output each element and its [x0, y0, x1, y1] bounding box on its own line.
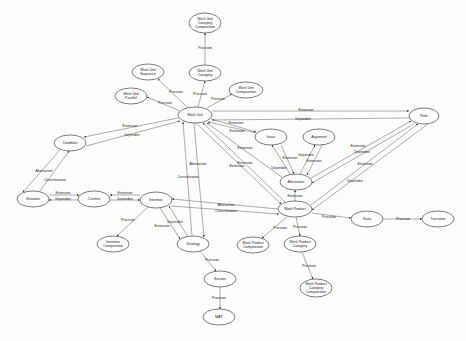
edge-label: Dependee — [295, 117, 311, 121]
node-label: Composition — [243, 245, 263, 249]
node-intcomp: IntentionComposition — [97, 236, 129, 252]
node-label: Intention — [149, 198, 163, 202]
nodes-layer: Work UnitCategoryCompositionWork UnitCat… — [17, 13, 454, 325]
edge-label: Precision — [158, 101, 172, 105]
edge-label: Extension — [229, 121, 244, 125]
node-label: Strategy — [186, 242, 200, 246]
node-label: Composition — [236, 90, 256, 94]
edge-label: Extension — [56, 191, 71, 195]
node-wpcat: Work ProductCategory — [284, 236, 316, 252]
node-label: Issue — [267, 135, 276, 139]
edge-label: Extension — [230, 164, 245, 168]
node-wpcc: Work ProductCategoryComposition — [300, 279, 332, 297]
edge-label: Precision — [193, 92, 207, 96]
node-label: Composition — [103, 244, 123, 248]
edge-label: Extension — [155, 224, 170, 228]
edge-label: Precision — [302, 264, 316, 268]
edge-label: Abstraction — [190, 162, 207, 166]
edge-label: Concretization — [215, 209, 237, 213]
node-label: Composition — [195, 25, 215, 29]
edge-label: Precision — [205, 258, 219, 262]
node-role: Role — [409, 108, 439, 124]
node-label: Alternative — [288, 180, 305, 184]
edge-label: Extension — [299, 108, 314, 112]
edge-label: Dependee — [124, 133, 140, 137]
edge-label: Dependee — [347, 179, 363, 183]
edge-wu-to-strat — [194, 123, 204, 237]
edge-label: Extension — [283, 156, 298, 160]
edge-label: Precision — [212, 296, 226, 300]
edge-label: Extension — [230, 129, 245, 133]
node-ctx: Context — [78, 191, 110, 207]
node-label: Sequence — [140, 72, 156, 76]
edge-label: Concretization — [44, 178, 66, 182]
node-label: Parallel — [125, 96, 137, 100]
edge-label: Extension — [307, 159, 322, 163]
edge-label: Precision — [293, 225, 307, 229]
edge-label: Extension — [123, 124, 138, 128]
node-label: Role — [420, 114, 427, 118]
edge-label: Dependee — [117, 197, 133, 201]
node-label: Context — [88, 197, 100, 201]
node-sit: Situation — [17, 191, 49, 207]
edge-label: Extension — [288, 194, 303, 198]
node-wpcomp: Work ProductComposition — [237, 237, 269, 253]
node-label: Composition — [306, 290, 326, 294]
node-alt: Alternative — [280, 174, 312, 190]
node-int: Intention — [140, 192, 172, 208]
node-wucc: Work UnitCategoryComposition — [189, 13, 221, 33]
edge-label: Precision — [273, 226, 287, 230]
node-arg: Argument — [303, 129, 335, 145]
node-label: Condition — [62, 141, 77, 145]
edge-label: Precision — [169, 90, 183, 94]
node-label: Work Product — [284, 207, 306, 211]
node-wupar: Work UnitParallel — [115, 88, 147, 104]
node-state: State — [351, 211, 383, 227]
node-label: Transition — [430, 217, 446, 221]
node-map: MAP — [203, 309, 235, 325]
edge-label: Extension — [118, 191, 133, 195]
edge-label: Dependee — [298, 153, 314, 157]
node-issue: Issue — [255, 129, 287, 145]
node-label: Work Unit — [187, 113, 203, 117]
node-wuseq: Work UnitSequence — [132, 64, 164, 80]
edges-layer — [23, 33, 428, 309]
edge-label: Dependee — [354, 150, 370, 154]
node-label: Situation — [26, 197, 40, 201]
edge-label: Precision — [198, 46, 212, 50]
node-wu: Work Unit — [178, 107, 212, 123]
node-strat: Strategy — [177, 236, 209, 252]
edge-label: Extension — [358, 162, 373, 166]
node-label: State — [363, 217, 371, 221]
edge-label: Dependee — [271, 166, 287, 170]
node-label: MAP — [215, 315, 223, 319]
edge-label: Dependee — [167, 220, 183, 224]
edge-arrow-icon — [194, 123, 204, 237]
edge-labels-layer: PrecisionPrecisionPrecisionPrecisionPrec… — [36, 46, 411, 300]
node-sect: Section — [204, 271, 236, 287]
edge-label: Extension — [238, 146, 253, 150]
diagram-canvas: PrecisionPrecisionPrecisionPrecisionPrec… — [0, 0, 466, 341]
edge-label: Precision — [322, 215, 336, 219]
node-wucat: Work UnitCategory — [189, 65, 221, 81]
edge-label: Precision — [121, 218, 135, 222]
edge-label: Abstraction — [218, 203, 235, 207]
node-label: Argument — [311, 135, 327, 139]
edge-label: Precision — [396, 217, 410, 221]
edge-label: Abstraction — [36, 169, 53, 173]
node-wucomp: Work UnitComposition — [229, 82, 263, 98]
edge-label: Concretization — [177, 175, 199, 179]
edge-label: Precision — [211, 97, 225, 101]
edge-label: Dependee — [55, 197, 71, 201]
node-label: Section — [214, 277, 226, 281]
node-label: Category — [198, 73, 213, 77]
node-trans: Transition — [422, 211, 454, 227]
node-label: Category — [293, 244, 308, 248]
edge-label: Extension — [351, 144, 366, 148]
node-wp: Work Product — [278, 201, 312, 217]
node-cond: Condition — [54, 135, 86, 151]
